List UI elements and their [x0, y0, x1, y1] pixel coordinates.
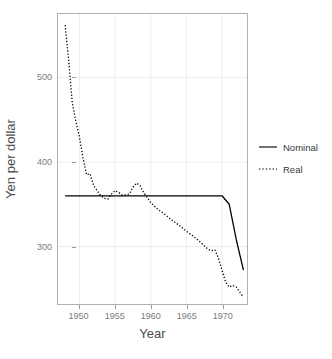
- x-axis-ticks: 19501955196019651970: [57, 305, 248, 323]
- x-tick-mark: [79, 305, 80, 309]
- legend-item-real: Real: [258, 160, 332, 178]
- y-tick-mark: [72, 162, 76, 163]
- y-tick-mark: [72, 247, 76, 248]
- x-tick-label: 1955: [105, 311, 125, 321]
- series-line-real: [65, 25, 243, 297]
- y-tick-label: 500: [37, 72, 52, 82]
- x-tick-label: 1970: [213, 311, 233, 321]
- chart-legend: Nominal Real: [258, 138, 332, 182]
- x-tick-mark: [223, 305, 224, 309]
- series-line-nominal: [65, 196, 243, 270]
- y-axis-title: Yen per dollar: [3, 119, 18, 199]
- y-tick-mark: [72, 77, 76, 78]
- x-axis-title: Year: [57, 326, 248, 341]
- legend-label-real: Real: [283, 164, 303, 175]
- y-tick-label: 300: [37, 242, 52, 252]
- legend-key-dotted-line: [258, 163, 278, 175]
- y-axis-ticks: 300400500: [20, 13, 52, 305]
- legend-label-nominal: Nominal: [283, 142, 318, 153]
- x-tick-label: 1965: [177, 311, 197, 321]
- x-tick-label: 1960: [141, 311, 161, 321]
- chart-figure: 300400500 19501955196019651970 Yen per d…: [0, 0, 332, 359]
- legend-key-solid-line: [258, 141, 278, 153]
- y-axis-title-wrap: Yen per dollar: [0, 13, 20, 305]
- x-tick-mark: [151, 305, 152, 309]
- y-tick-label: 400: [37, 157, 52, 167]
- x-tick-mark: [187, 305, 188, 309]
- plot-panel: [57, 13, 248, 305]
- x-tick-mark: [115, 305, 116, 309]
- data-series-layer: [58, 14, 247, 304]
- x-tick-label: 1950: [69, 311, 89, 321]
- legend-item-nominal: Nominal: [258, 138, 332, 156]
